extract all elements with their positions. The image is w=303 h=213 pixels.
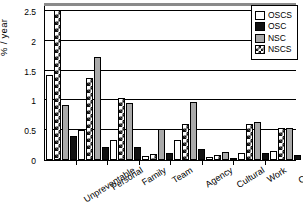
legend-swatch-oscs [255,11,265,20]
x-axis-labels: UnpreventablePersonalFamilyTeamAgencyCul… [0,163,303,213]
bar [126,103,133,160]
bar [222,152,229,160]
legend-label: OSCS [268,11,292,20]
bar [230,158,237,160]
legend-swatch-nsc [255,34,265,43]
legend-item: NSC [255,33,292,44]
bar [174,140,181,160]
bar [182,124,189,160]
bar [254,122,261,160]
x-axis-category-label: Work [265,165,288,185]
bar [150,154,157,160]
bar [190,102,197,160]
legend-item: NSCS [255,44,292,55]
bar [166,153,173,160]
legend-swatch-nscs [255,45,265,54]
bar [198,149,205,160]
legend-item: OSCS [255,10,292,21]
bar [102,147,109,160]
bar-group [141,6,173,160]
bar [286,128,293,160]
x-axis-category-label: Other [297,165,303,185]
y-axis-labels: 00.511.522.5 [0,6,40,161]
chart-legend: OSCSOSCNSCNSCS [251,5,298,60]
y-axis-tick-label: 2 [31,38,36,47]
legend-swatch-osc [255,22,265,31]
bar [134,147,141,160]
x-axis-category-label: Cultural [235,165,267,190]
y-axis-tick-label: 1 [31,97,36,106]
bar [110,140,117,160]
bar [278,128,285,160]
bar [142,156,149,160]
bar [206,157,213,160]
bar [46,75,53,160]
bar-group [109,6,141,160]
bar [270,151,277,160]
bar [62,105,69,160]
bar [158,129,165,160]
y-axis-tick-label: 1.5 [24,67,36,76]
bar [238,153,245,160]
bar [78,130,85,160]
bar [94,57,101,160]
legend-label: OSC [268,22,286,31]
bar-group [205,6,237,160]
y-axis-tick-label: 0.5 [24,127,36,136]
legend-label: NSC [268,34,286,43]
bar [70,136,77,160]
bar-group [77,6,109,160]
x-axis-category-label: Team [171,165,195,185]
bar [294,155,301,160]
bar-group [45,6,77,160]
bar [54,10,61,160]
legend-item: OSC [255,21,292,32]
y-axis-tick-label: 2.5 [24,8,36,17]
bar [118,98,125,160]
bar [246,124,253,160]
x-axis-category-label: Family [140,165,168,188]
bar-chart: % / year 00.511.522.5 UnpreventablePerso… [0,0,303,213]
x-axis-category-label: Agency [204,165,235,189]
bar [262,153,269,160]
bar-group [173,6,205,160]
bar [86,78,93,160]
bar [214,155,221,160]
legend-label: NSCS [268,45,292,54]
